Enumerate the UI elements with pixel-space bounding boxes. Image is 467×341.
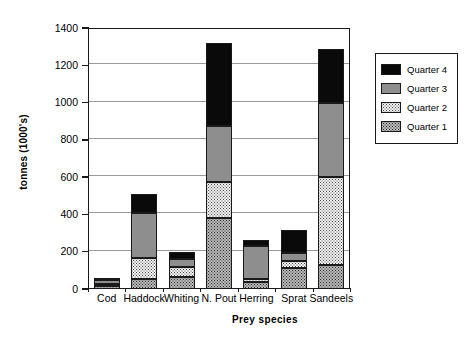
legend-item[interactable]: Quarter 1 <box>381 117 452 136</box>
legend-swatch-q1 <box>381 121 401 132</box>
gridline <box>89 250 349 251</box>
legend-label: Quarter 3 <box>407 83 447 94</box>
y-axis-tick-label: 200 <box>18 246 78 257</box>
gridline <box>89 63 349 64</box>
gridline <box>89 175 349 176</box>
y-axis-tick <box>82 27 89 28</box>
y-axis-tick <box>82 214 89 215</box>
plot-area <box>88 28 350 289</box>
x-axis-label: N. Pout <box>201 292 236 304</box>
x-axis-label: Sprat <box>281 292 306 304</box>
x-axis-label: Cod <box>97 292 116 304</box>
legend-item[interactable]: Quarter 2 <box>381 98 452 117</box>
x-axis-label: Sandeels <box>309 292 353 304</box>
gridline <box>89 212 349 213</box>
y-axis-tick-label: 400 <box>18 209 78 220</box>
x-axis-category-labels: CodHaddockWhitingN. PoutHerringSpratSand… <box>88 292 350 308</box>
y-axis-tick <box>82 65 89 66</box>
legend-swatch-q3 <box>381 83 401 94</box>
y-axis-tick-label: 1000 <box>18 97 78 108</box>
chart-figure: tonnes (1000's) 020040060080010001200140… <box>0 0 467 341</box>
legend-label: Quarter 4 <box>407 64 447 75</box>
chart-legend: Quarter 4Quarter 3Quarter 2Quarter 1 <box>375 53 458 144</box>
legend-label: Quarter 1 <box>407 121 447 132</box>
legend-label: Quarter 2 <box>407 102 447 113</box>
x-axis-tick <box>163 288 164 292</box>
x-axis-label: Haddock <box>123 292 164 304</box>
x-axis-title: Prey species <box>232 314 298 325</box>
x-axis-tick <box>125 288 126 292</box>
x-axis-tick <box>88 288 89 292</box>
x-axis-tick <box>350 288 351 292</box>
y-axis-tick-label: 800 <box>18 134 78 145</box>
legend-item[interactable]: Quarter 4 <box>381 60 452 79</box>
y-axis-tick <box>82 251 89 252</box>
legend-swatch-q4 <box>381 64 401 75</box>
y-axis-tick-label: 0 <box>18 284 78 295</box>
x-axis-label: Herring <box>239 292 273 304</box>
y-axis-tick-label: 600 <box>18 172 78 183</box>
x-axis-tick <box>200 288 201 292</box>
legend-swatch-q2 <box>381 102 401 113</box>
y-axis-tick <box>82 139 89 140</box>
y-axis-tick <box>82 176 89 177</box>
y-axis-tick <box>82 102 89 103</box>
y-axis-tick-label: 1200 <box>18 60 78 71</box>
gridline <box>89 138 349 139</box>
gridline <box>89 101 349 102</box>
x-axis-tick <box>313 288 314 292</box>
y-axis-tick-label: 1400 <box>18 23 78 34</box>
legend-item[interactable]: Quarter 3 <box>381 79 452 98</box>
x-axis-tick <box>238 288 239 292</box>
x-axis-label: Whiting <box>164 292 199 304</box>
x-axis-tick <box>275 288 276 292</box>
